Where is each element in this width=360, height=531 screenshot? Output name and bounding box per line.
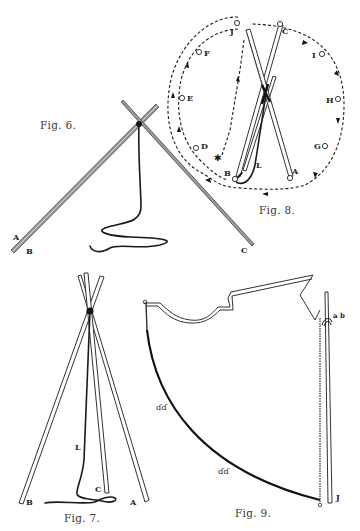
pole-aj: [246, 29, 293, 177]
fig6-caption: Fig. 6.: [40, 119, 76, 131]
figure-8: ✱ J C I H G A B L D: [168, 17, 344, 216]
fig8-label-l: L: [256, 160, 262, 170]
fig8-label-d: D: [201, 141, 208, 151]
fig9-label-ab: a b: [333, 311, 345, 320]
fig9-label-j: J: [335, 492, 340, 502]
center-path: [222, 40, 244, 155]
tie-mark: ✱: [214, 153, 222, 163]
fig6-label-a: A: [12, 232, 20, 242]
fig6-label-b: B: [26, 246, 33, 256]
fig6-label-c: C: [241, 245, 247, 255]
cover-curved-edge: [147, 330, 320, 500]
fig7-label-a: A: [129, 497, 137, 507]
fig8-label-h: H: [326, 95, 334, 105]
fig8-label-j: J: [229, 26, 234, 36]
figure-7: L C B A Fig. 7.: [19, 273, 149, 524]
fig8-caption: Fig. 8.: [259, 204, 295, 216]
peg-f: [196, 49, 201, 54]
peg-g: [322, 143, 327, 148]
peg-j: [234, 20, 239, 25]
peg-b: [232, 176, 237, 181]
figure-9: ɗɗ ɗɗ a b J Fig. 9.: [143, 275, 345, 519]
fig7-caption: Fig. 7.: [64, 512, 100, 524]
fig7-label-b: B: [26, 497, 33, 507]
peg-e: [179, 95, 184, 100]
fig8-label-i: I: [312, 50, 316, 60]
tie-mark: ɗɗ: [218, 467, 229, 476]
peg-h: [335, 96, 340, 101]
trailing-cord: [90, 124, 167, 252]
peg-i: [319, 51, 324, 56]
fig8-label-c: C: [282, 26, 288, 36]
fig9-caption: Fig. 9.: [235, 507, 271, 519]
peg-a: [287, 175, 292, 180]
fig8-label-b: B: [224, 168, 231, 178]
figure-6: A B C Fig. 6.: [11, 100, 254, 256]
fig8-label-a: A: [291, 166, 299, 176]
illustration-plate: A B C Fig. 6. ✱: [0, 0, 360, 531]
pole-ab: [11, 104, 159, 253]
tie-mark: ɗɗ: [156, 403, 167, 412]
peg-d: [193, 145, 198, 150]
fig7-label-l: L: [75, 442, 81, 452]
fig8-label-f: F: [204, 48, 210, 58]
fig8-label-e: E: [187, 93, 193, 103]
fig7-label-c: C: [95, 484, 101, 494]
fig8-label-g: G: [314, 141, 321, 151]
